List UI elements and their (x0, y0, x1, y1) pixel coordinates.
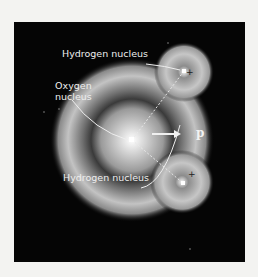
oxygen-label-line2: nucleus (55, 91, 92, 102)
hydrogen-bottom-nucleus-dot (181, 181, 185, 185)
plus-charge-top: + (186, 67, 194, 77)
hydrogen-nucleus-top-label: Hydrogen nucleus (62, 48, 148, 59)
hydrogen-nucleus-bottom-label: Hydrogen nucleus (63, 172, 149, 183)
dipole-moment-label: p (196, 126, 204, 140)
molecule-diagram-panel: + + Hydrogen nucleus Oxygen nucleus Hydr… (14, 22, 245, 262)
oxygen-nucleus-label: Oxygen nucleus (55, 80, 92, 102)
oxygen-nucleus-dot (129, 137, 134, 142)
plus-charge-bottom: + (188, 169, 196, 179)
oxygen-label-line1: Oxygen (55, 80, 92, 91)
